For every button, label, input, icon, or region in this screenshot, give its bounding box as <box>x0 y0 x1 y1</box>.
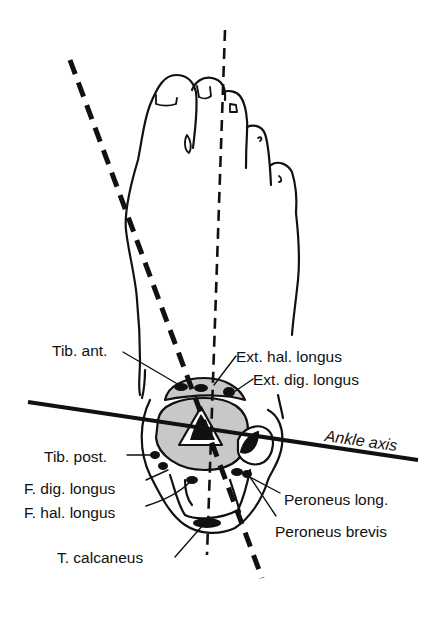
label-peroneus-long: Peroneus long. <box>284 492 388 508</box>
label-ext-dig-longus: Ext. dig. longus <box>253 372 359 388</box>
label-peroneus-brevis: Peroneus brevis <box>275 524 387 540</box>
ankle-axis-diagram: Tib. ant. Ext. hal. longus Ext. dig. lon… <box>0 0 448 621</box>
foot-outline <box>126 75 299 418</box>
label-t-calcaneus: T. calcaneus <box>57 550 143 566</box>
thick-dashed-axis <box>70 60 262 578</box>
ankle-cross-section <box>142 378 283 533</box>
label-tib-ant: Tib. ant. <box>52 343 107 359</box>
label-tib-post: Tib. post. <box>44 449 107 465</box>
label-ext-hal-longus: Ext. hal. longus <box>236 349 342 365</box>
label-f-dig-longus: F. dig. longus <box>24 481 115 497</box>
label-f-hal-longus: F. hal. longus <box>24 505 115 521</box>
toenails <box>156 86 281 182</box>
